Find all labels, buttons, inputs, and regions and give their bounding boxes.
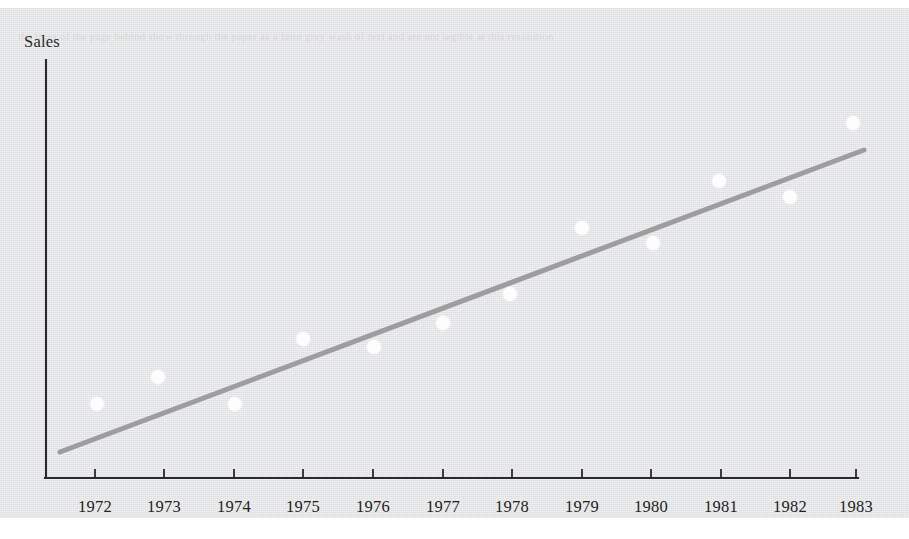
x-tick-label-1978: 1978 — [495, 497, 529, 517]
x-tick-label-1981: 1981 — [704, 497, 738, 517]
x-tick-label-1982: 1982 — [773, 497, 807, 517]
data-point-1978 — [503, 287, 517, 301]
data-point-1983 — [846, 116, 860, 130]
fitted-trend-line — [60, 150, 864, 452]
data-point-1973 — [151, 370, 165, 384]
data-points — [90, 116, 860, 411]
data-point-1975 — [296, 332, 310, 346]
x-tick-label-1977: 1977 — [426, 497, 460, 517]
x-tick-label-1979: 1979 — [565, 497, 599, 517]
data-point-1982 — [783, 190, 797, 204]
trend-line — [60, 150, 864, 452]
data-point-1974 — [228, 397, 242, 411]
chart-axes — [45, 60, 858, 478]
data-point-1976 — [367, 340, 381, 354]
x-tick-label-1974: 1974 — [217, 497, 251, 517]
chart-page: the lines of the page behind show throug… — [0, 0, 909, 539]
x-tick-label-1975: 1975 — [286, 497, 320, 517]
x-tick-label-1973: 1973 — [147, 497, 181, 517]
sales-scatter-chart — [0, 0, 909, 539]
x-axis-ticks — [95, 469, 856, 478]
x-tick-label-1972: 1972 — [78, 497, 112, 517]
x-tick-label-1980: 1980 — [634, 497, 668, 517]
data-point-1979 — [575, 221, 589, 235]
data-point-1972 — [90, 397, 104, 411]
y-axis-label: Sales — [24, 32, 60, 52]
x-tick-label-1983: 1983 — [839, 497, 873, 517]
data-point-1977 — [436, 316, 450, 330]
data-point-1981 — [712, 174, 726, 188]
data-point-1980 — [646, 236, 660, 250]
x-tick-label-1976: 1976 — [356, 497, 390, 517]
